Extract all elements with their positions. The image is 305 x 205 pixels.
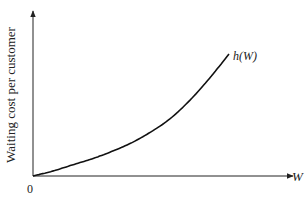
curve-label: h(W) [233, 49, 257, 63]
curve-h-of-w [33, 54, 229, 176]
y-axis-label: Waiting cost per customer [3, 26, 18, 162]
origin-label: 0 [27, 182, 33, 196]
chart: Waiting cost per customer 0 W h(W) [0, 0, 305, 205]
x-axis-label: W [292, 169, 304, 184]
